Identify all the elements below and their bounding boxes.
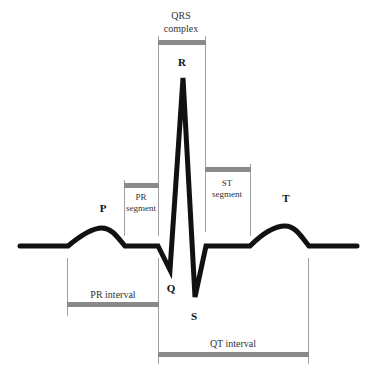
st-segment-label-line1: ST [222, 178, 233, 188]
p-wave-label: P [100, 202, 107, 214]
ecg-diagram: QRS complex PR segment ST segment PR int… [0, 0, 373, 383]
pr-interval-bar [67, 302, 159, 307]
s-wave-label: S [191, 310, 197, 322]
ecg-waveform [20, 78, 357, 297]
pr-segment-bar [124, 183, 159, 188]
r-wave-label: R [178, 56, 187, 68]
t-wave-label: T [282, 192, 290, 204]
qrs-label-line2: complex [164, 23, 198, 34]
pr-segment-label-line1: PR [135, 192, 146, 202]
st-segment-bar [205, 167, 251, 172]
pr-interval-label: PR interval [90, 289, 135, 300]
pr-segment-label-line2: segment [126, 203, 156, 213]
st-segment-label-line2: segment [212, 189, 242, 199]
qrs-label-line1: QRS [171, 10, 190, 21]
q-wave-label: Q [167, 282, 176, 294]
qt-interval-label: QT interval [210, 338, 256, 349]
qrs-complex-bar [158, 40, 206, 45]
qt-interval-bar [158, 352, 309, 357]
